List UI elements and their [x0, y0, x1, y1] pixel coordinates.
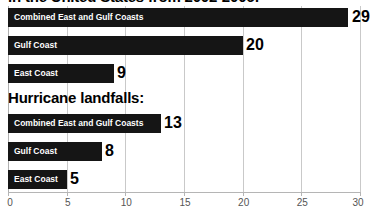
- bar-value-label: 8: [105, 142, 114, 161]
- gridline-30: [360, 6, 361, 192]
- bar-value-label: 20: [246, 36, 264, 55]
- tick-label-0: 0: [7, 197, 13, 208]
- tick-mark-15: [184, 192, 185, 196]
- bar-value-label: 5: [70, 170, 79, 189]
- tick-label-30: 30: [352, 197, 363, 208]
- bar-value-label: 9: [117, 64, 126, 83]
- gridline-15: [184, 6, 185, 192]
- tick-label-10: 10: [121, 197, 132, 208]
- chart-title: in the United States from 2002-2006:: [8, 0, 360, 2]
- tick-mark-25: [301, 192, 302, 196]
- bar-category-label: Gulf Coast: [14, 36, 57, 55]
- bar-category-label: Combined East and Gulf Coasts: [14, 8, 143, 27]
- section-heading-hurricane-landfalls: Hurricane landfalls:: [8, 89, 144, 106]
- tick-label-15: 15: [179, 197, 190, 208]
- tick-mark-5: [67, 192, 68, 196]
- bar-category-label: East Coast: [14, 170, 58, 189]
- gridline-25: [301, 6, 302, 192]
- tick-mark-20: [243, 192, 244, 196]
- tick-label-5: 5: [65, 197, 71, 208]
- bar-value-label: 13: [164, 114, 182, 133]
- tick-mark-30: [360, 192, 361, 196]
- tick-mark-10: [125, 192, 126, 196]
- tick-label-25: 25: [297, 197, 308, 208]
- x-axis: 0 5 10 15 20 25 30: [8, 192, 360, 214]
- bar-category-label: East Coast: [14, 64, 58, 83]
- bar-category-label: Combined East and Gulf Coasts: [14, 114, 143, 133]
- tick-label-20: 20: [238, 197, 249, 208]
- tick-mark-0: [8, 192, 9, 196]
- bar-category-label: Gulf Coast: [14, 142, 57, 161]
- gridline-20: [243, 6, 244, 192]
- bar-value-label: 29: [352, 8, 370, 27]
